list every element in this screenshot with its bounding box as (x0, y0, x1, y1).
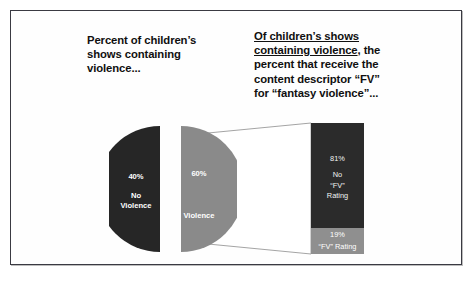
bar-segment-no-fv-rating: 81% No “FV” Rating (311, 123, 364, 228)
pie-label-violence-percent: 60% (179, 169, 219, 179)
pie-label-no-violence-percent: 40% (114, 172, 158, 182)
slide-frame: Percent of children’sshows containingvio… (10, 10, 462, 265)
heading-left: Percent of children’sshows containingvio… (87, 33, 237, 76)
heading-right-rest-1: , the (358, 44, 381, 56)
heading-right-line-5: for “fantasy violence”... (254, 87, 378, 99)
pie-slice-no-violence (109, 126, 160, 252)
bar-segment-fv-percent: 19% (330, 230, 345, 240)
heading-right: Of children’s showscontaining violence, … (254, 29, 422, 100)
bar-segment-no-fv-percent: 81% (330, 154, 345, 164)
heading-left-line-3: violence... (87, 62, 141, 74)
heading-left-line-1: Percent of children’s (87, 34, 196, 46)
pie-slice-violence (181, 126, 237, 252)
pie-chart (109, 119, 237, 259)
heading-left-line-2: shows containing (87, 48, 181, 60)
bar-segment-no-fv-line-3: Rating (327, 191, 348, 201)
bar-segment-no-fv-line-1: No (333, 170, 342, 180)
stacked-bar-chart: 81% No “FV” Rating 19% “FV” Rating (311, 123, 364, 254)
heading-right-line-4: content descriptor “FV” (254, 73, 380, 85)
pie-chart-svg (109, 119, 237, 259)
heading-right-underline-1: Of children’s shows (254, 30, 359, 42)
bar-segment-fv-line-1: “FV” Rating (319, 242, 357, 252)
heading-right-line-3: percent that receive the (254, 58, 378, 70)
pie-label-no-violence-line-2: Violence (109, 201, 163, 211)
pie-label-violence-line-1: Violence (173, 211, 225, 221)
bar-segment-no-fv-line-2: “FV” (330, 181, 344, 191)
pie-label-no-violence-line-1: No (114, 191, 158, 201)
heading-right-underline-2: containing violence (254, 44, 358, 56)
bar-segment-fv-rating: 19% “FV” Rating (311, 228, 364, 254)
